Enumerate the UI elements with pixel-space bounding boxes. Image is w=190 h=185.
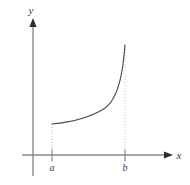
tick-label-a: a	[50, 162, 55, 173]
x-axis-arrowhead	[164, 151, 173, 158]
figure-container: y x a b	[0, 0, 190, 185]
y-axis-arrowhead	[29, 18, 36, 27]
tick-label-b: b	[123, 162, 128, 173]
increasing-asymptotic-curve	[52, 45, 125, 124]
y-axis-label: y	[28, 4, 34, 16]
x-axis-label: x	[176, 149, 182, 161]
graph-canvas: y x a b	[0, 0, 190, 185]
